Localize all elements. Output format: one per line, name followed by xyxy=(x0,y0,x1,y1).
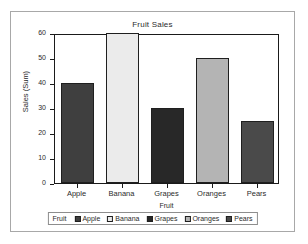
y-axis-ticks: 0102030405060 xyxy=(11,34,54,184)
plot-area xyxy=(54,34,279,184)
x-axis-tick-label: Pears xyxy=(247,189,267,198)
y-axis-tick-label: 40 xyxy=(38,79,46,86)
legend-item-oranges[interactable]: Oranges xyxy=(184,215,219,222)
legend-item-banana[interactable]: Banana xyxy=(107,215,139,222)
x-axis-tick-mark xyxy=(122,184,123,188)
y-axis-tick-label: 30 xyxy=(38,104,46,111)
legend-item-grapes[interactable]: Grapes xyxy=(146,215,177,222)
legend-swatch-icon xyxy=(74,216,80,222)
y-axis-tick-label: 50 xyxy=(38,54,46,61)
y-axis-tick-label: 0 xyxy=(42,179,46,186)
legend-item-pears[interactable]: Pears xyxy=(226,215,252,222)
legend-item-apple[interactable]: Apple xyxy=(74,215,100,222)
x-axis-tick-mark xyxy=(212,184,213,188)
x-axis-tick-label: Apple xyxy=(67,189,86,198)
y-axis-tick-label: 20 xyxy=(38,129,46,136)
y-axis-tick-label: 10 xyxy=(38,154,46,161)
legend-item-label: Oranges xyxy=(192,215,219,222)
legend-swatch-icon xyxy=(107,216,113,222)
x-axis-tick-mark xyxy=(257,184,258,188)
legend-item-label: Pears xyxy=(234,215,252,222)
legend-item-label: Banana xyxy=(115,215,139,222)
x-axis-tick-label: Grapes xyxy=(154,189,179,198)
x-axis-tick-mark xyxy=(167,184,168,188)
bar-pears[interactable] xyxy=(241,121,273,184)
legend-item-label: Grapes xyxy=(154,215,177,222)
chart-frame: Fruit Sales Sales (Sum) 0102030405060 Ap… xyxy=(10,11,295,232)
chart-legend: Fruit AppleBananaGrapesOrangesPears xyxy=(47,212,257,225)
x-axis-ticks: AppleBananaGrapesOrangesPears xyxy=(54,184,279,202)
legend-swatch-icon xyxy=(146,216,152,222)
x-axis-title: Fruit xyxy=(54,202,279,209)
bar-grapes[interactable] xyxy=(151,108,183,183)
y-axis-tick-label: 60 xyxy=(38,29,46,36)
x-axis-tick-mark xyxy=(77,184,78,188)
bar-oranges[interactable] xyxy=(196,58,228,183)
bar-banana[interactable] xyxy=(106,33,138,183)
legend-swatch-icon xyxy=(184,216,190,222)
x-axis-tick-label: Oranges xyxy=(197,189,226,198)
bars-layer xyxy=(55,35,278,183)
x-axis-tick-label: Banana xyxy=(109,189,135,198)
bar-apple[interactable] xyxy=(61,83,93,183)
legend-title: Fruit xyxy=(52,215,67,222)
chart-title: Fruit Sales xyxy=(11,20,294,29)
legend-swatch-icon xyxy=(226,216,232,222)
legend-item-label: Apple xyxy=(82,215,100,222)
